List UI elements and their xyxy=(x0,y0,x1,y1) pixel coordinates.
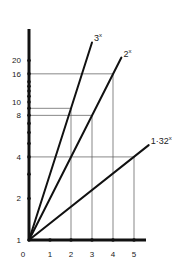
x-tick xyxy=(90,238,94,242)
y-tick xyxy=(27,89,31,93)
guide-lines xyxy=(29,74,134,240)
series-label-exponent: x xyxy=(169,135,172,141)
tick-labels: 1248101620012345 xyxy=(12,56,137,259)
y-tick xyxy=(27,122,31,126)
y-tick xyxy=(27,238,31,242)
series-label-base: 1·32 xyxy=(151,136,169,146)
y-tick xyxy=(27,172,31,176)
series-label-exponent: x xyxy=(128,48,131,54)
y-tick-label: 8 xyxy=(17,111,22,120)
series-line xyxy=(29,145,149,240)
y-tick xyxy=(27,100,31,104)
y-tick-label: 1 xyxy=(17,236,22,245)
x-tick xyxy=(111,238,115,242)
series-label: 3x xyxy=(94,32,102,43)
y-tick xyxy=(27,114,31,118)
y-tick-label: 20 xyxy=(12,56,21,65)
x-tick-label: 3 xyxy=(90,250,95,259)
exponential-log-chart: 1248101620012345 3x2x1·32x xyxy=(0,0,172,271)
y-tick-label: 16 xyxy=(12,70,21,79)
y-tick xyxy=(27,94,31,98)
y-tick xyxy=(27,197,31,201)
series-label-exponent: x xyxy=(99,32,102,38)
y-tick xyxy=(27,72,31,76)
y-tick xyxy=(27,155,31,159)
x-tick-label: 0 xyxy=(21,250,26,259)
y-tick xyxy=(27,142,31,146)
y-tick xyxy=(27,84,31,88)
y-tick xyxy=(27,107,31,111)
x-tick-label: 5 xyxy=(132,250,137,259)
series-label: 1·32x xyxy=(151,135,172,146)
series-lines xyxy=(29,42,149,240)
y-tick-label: 2 xyxy=(17,194,22,203)
series-line xyxy=(29,58,121,240)
x-tick-label: 4 xyxy=(111,250,116,259)
y-tick-label: 4 xyxy=(17,153,22,162)
x-tick xyxy=(69,238,73,242)
y-tick xyxy=(27,131,31,135)
y-tick-label: 10 xyxy=(12,98,21,107)
x-tick xyxy=(48,238,52,242)
y-tick xyxy=(27,80,31,84)
x-tick-label: 2 xyxy=(69,250,74,259)
y-tick xyxy=(27,59,31,63)
x-tick-label: 1 xyxy=(48,250,53,259)
x-tick xyxy=(132,238,136,242)
series-line xyxy=(29,42,92,240)
series-label: 2x xyxy=(123,48,131,59)
